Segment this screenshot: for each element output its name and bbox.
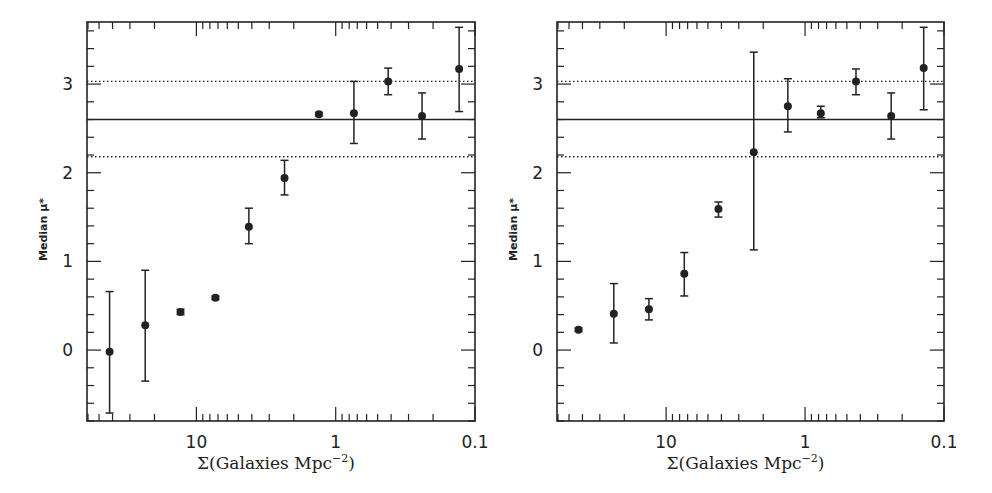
data-point xyxy=(750,52,758,250)
marker xyxy=(852,77,860,85)
data-point xyxy=(645,299,653,320)
y-tick-label: 1 xyxy=(62,251,73,271)
superscript: −2 xyxy=(332,452,348,465)
figure: 1010.10123Σ(Galaxies Mpc−2)Median μ* 101… xyxy=(0,0,992,493)
x-tick-label: 1 xyxy=(800,432,811,452)
marker xyxy=(714,205,722,213)
data-point xyxy=(315,110,323,118)
data-point xyxy=(106,292,114,413)
data-point xyxy=(714,202,722,217)
marker xyxy=(817,109,825,117)
marker xyxy=(177,308,185,316)
marker xyxy=(575,326,583,334)
x-tick-label: 1 xyxy=(330,432,341,452)
marker xyxy=(610,310,618,318)
y-tick-label: 1 xyxy=(532,251,543,271)
marker xyxy=(106,348,114,356)
marker xyxy=(245,223,253,231)
y-tick-label: 0 xyxy=(62,340,73,360)
x-tick-label: 0.1 xyxy=(461,432,488,452)
x-tick-label: 0.1 xyxy=(930,432,957,452)
marker xyxy=(887,112,895,120)
x-axis-title-end: ) xyxy=(818,453,825,473)
marker xyxy=(920,64,928,72)
marker xyxy=(350,109,358,117)
y-tick-label: 2 xyxy=(62,163,73,183)
data-point xyxy=(281,160,289,195)
x-tick-label: 10 xyxy=(655,432,677,452)
data-point xyxy=(887,93,895,139)
y-axis-title: Median μ* xyxy=(37,198,50,261)
data-point xyxy=(177,308,185,316)
data-point xyxy=(211,294,219,302)
right-chart-panel: 1010.10123Σ(Galaxies Mpc−2)Median μ* xyxy=(507,22,958,473)
marker xyxy=(455,65,463,73)
marker xyxy=(281,174,289,182)
x-axis-title: Σ(Galaxies Mpc−2) xyxy=(667,452,825,473)
marker xyxy=(315,110,323,118)
data-point xyxy=(141,270,149,381)
marker xyxy=(645,305,653,313)
y-tick-label: 2 xyxy=(532,163,543,183)
y-axis-title: Median μ* xyxy=(507,198,520,261)
data-point xyxy=(920,27,928,109)
marker xyxy=(750,148,758,156)
x-axis-title-end: ) xyxy=(348,453,355,473)
marker xyxy=(384,77,392,85)
data-point xyxy=(817,106,825,118)
data-point xyxy=(575,326,583,334)
data-point xyxy=(455,27,463,111)
data-point xyxy=(610,284,618,343)
y-tick-label: 3 xyxy=(62,74,73,94)
data-point xyxy=(245,208,253,243)
marker xyxy=(418,112,426,120)
marker xyxy=(784,102,792,110)
x-tick-label: 10 xyxy=(186,432,208,452)
left-chart-panel: 1010.10123Σ(Galaxies Mpc−2)Median μ* xyxy=(37,22,489,473)
data-point xyxy=(784,79,792,132)
superscript: −2 xyxy=(802,452,818,465)
marker xyxy=(141,321,149,329)
data-point xyxy=(384,68,392,95)
data-point xyxy=(350,81,358,143)
data-point xyxy=(418,93,426,139)
data-point xyxy=(680,253,688,296)
data-point xyxy=(852,69,860,95)
marker xyxy=(211,294,219,302)
marker xyxy=(680,270,688,278)
y-tick-label: 0 xyxy=(532,340,543,360)
x-axis-title: Σ(Galaxies Mpc−2) xyxy=(197,452,355,473)
y-tick-label: 3 xyxy=(532,74,543,94)
